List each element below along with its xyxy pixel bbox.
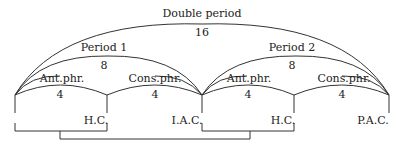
cadence-4: P.A.C.	[357, 115, 389, 126]
cadence-2: I.A.C.	[172, 115, 203, 126]
cadence-3: H.C.	[271, 115, 296, 126]
double-period-diagram: Double period 16 Period 1 8 Period 2 8 A…	[0, 0, 404, 146]
phrase-2-label: Cons.phr.	[129, 73, 182, 84]
phrase-4-label: Cons.phr.	[318, 73, 371, 84]
double-period-measures: 16	[195, 27, 209, 38]
bracket-connector	[60, 131, 250, 139]
phrase-3-label: Ant.phr.	[227, 73, 272, 84]
double-period-label: Double period	[162, 8, 241, 19]
cadence-1: H.C.	[84, 115, 109, 126]
phrase-2-measures: 4	[152, 89, 159, 100]
period-1-measures: 8	[101, 60, 108, 71]
period-1-label: Period 1	[81, 42, 127, 53]
phrase-3-measures: 4	[245, 89, 252, 100]
phrase-4-measures: 4	[339, 89, 346, 100]
phrase-1-label: Ant.phr.	[40, 73, 85, 84]
phrase-1-measures: 4	[57, 89, 64, 100]
period-2-measures: 8	[289, 60, 296, 71]
period-2-label: Period 2	[269, 42, 315, 53]
